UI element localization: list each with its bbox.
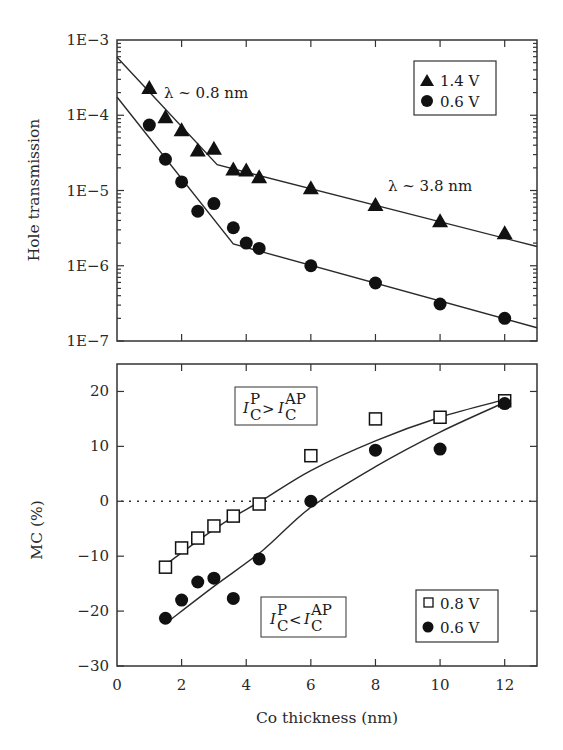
- bottom-ytick-labels: 20100−10−20−30: [77, 382, 109, 675]
- top-y-axis-title: Hole transmission: [25, 119, 43, 262]
- y-tick-label: 1E−5: [66, 182, 109, 200]
- annot-i2: I: [277, 399, 285, 417]
- legend-label-0-8v: 0.8 V: [440, 595, 481, 613]
- legend-circle-marker: [421, 95, 433, 107]
- annotation-p-less-ap: I P C < I AP C: [261, 597, 346, 637]
- annotation-lambda-3-8: λ ~ 3.8 nm: [388, 177, 472, 195]
- y-tick-label: 10: [90, 437, 109, 455]
- data-point-circle: [369, 444, 382, 457]
- chart: 1E−31E−41E−51E−61E−7 Hole transmission λ…: [0, 0, 563, 750]
- fit-curve-06V: [170, 402, 504, 619]
- data-point-circle: [143, 119, 156, 132]
- data-point-triangle: [225, 162, 241, 176]
- annot-i: I: [269, 610, 277, 628]
- legend-label-0-6v-top: 0.6 V: [440, 93, 481, 111]
- annot-i2: I: [303, 610, 311, 628]
- y-tick-label: −30: [77, 657, 109, 675]
- data-point-square: [192, 532, 204, 544]
- data-point-circle: [227, 592, 240, 605]
- x-tick-label: 10: [431, 676, 450, 694]
- top-panel: 1E−31E−41E−51E−61E−7 Hole transmission λ…: [25, 31, 537, 350]
- data-point-circle: [159, 153, 172, 166]
- data-point-square: [434, 411, 446, 423]
- data-point-triangle: [141, 80, 157, 94]
- data-point-square: [253, 498, 265, 510]
- x-tick-label: 2: [177, 676, 187, 694]
- data-point-square: [208, 520, 220, 532]
- y-tick-label: 1E−3: [66, 31, 109, 49]
- annot-sub: C: [277, 617, 288, 635]
- y-tick-label: 1E−7: [66, 332, 109, 350]
- data-point-circle: [191, 575, 204, 588]
- data-point-circle: [434, 298, 447, 311]
- data-point-square: [159, 561, 171, 573]
- annotation-p-greater-ap: I P C > I AP C: [235, 387, 317, 425]
- data-point-triangle: [497, 225, 513, 239]
- data-point-circle: [498, 397, 511, 410]
- bottom-y-axis-title: MC (%): [28, 500, 46, 559]
- x-tick-label: 0: [112, 676, 122, 694]
- bottom-legend: 0.8 V 0.6 V: [416, 590, 498, 642]
- y-tick-label: 20: [90, 382, 109, 400]
- x-axis-title: Co thickness (nm): [256, 709, 398, 727]
- annot-sub2: C: [311, 617, 322, 635]
- legend-label-1-4v: 1.4 V: [440, 72, 481, 90]
- data-point-circle: [498, 312, 511, 325]
- top-ytick-labels: 1E−31E−41E−51E−61E−7: [66, 31, 109, 350]
- annot-i: I: [242, 399, 250, 417]
- data-point-circle: [253, 242, 266, 255]
- data-point-square: [305, 450, 317, 462]
- annot-sub2: C: [285, 406, 296, 424]
- data-point-circle: [253, 552, 266, 565]
- top-legend: 1.4 V 0.6 V: [414, 61, 496, 115]
- annot-sub: C: [250, 406, 261, 424]
- legend-square-marker: [424, 598, 433, 607]
- x-tick-label: 12: [495, 676, 514, 694]
- data-point-circle: [207, 197, 220, 210]
- y-tick-label: −10: [77, 547, 109, 565]
- data-point-circle: [304, 495, 317, 508]
- data-point-square: [176, 542, 188, 554]
- data-point-circle: [175, 594, 188, 607]
- legend-label-0-6v-bottom: 0.6 V: [440, 619, 481, 637]
- y-tick-label: 1E−4: [66, 106, 109, 124]
- annot-op: >: [262, 400, 275, 418]
- data-point-triangle: [206, 141, 222, 155]
- legend-circle-marker: [423, 622, 434, 633]
- bottom-xtick-labels: 024681012: [112, 676, 514, 694]
- data-point-circle: [227, 221, 240, 234]
- x-tick-label: 6: [306, 676, 316, 694]
- data-point-triangle: [174, 122, 190, 136]
- data-point-square: [369, 413, 381, 425]
- data-point-circle: [191, 205, 204, 218]
- data-point-circle: [159, 612, 172, 625]
- bottom-panel: 20100−10−20−30 024681012 MC (%) Co thick…: [28, 364, 537, 727]
- top-data-points: [141, 80, 512, 325]
- fit-curve-08V: [164, 400, 505, 566]
- x-tick-label: 4: [241, 676, 251, 694]
- data-point-triangle: [238, 162, 254, 176]
- annotation-lambda-0-8: λ ~ 0.8 nm: [164, 84, 248, 102]
- bottom-fit-lines: [164, 400, 505, 620]
- data-point-circle: [240, 237, 253, 250]
- y-tick-label: −20: [77, 602, 109, 620]
- annot-op: <: [289, 611, 302, 629]
- data-point-circle: [175, 175, 188, 188]
- data-point-square: [227, 510, 239, 522]
- data-point-circle: [369, 276, 382, 289]
- y-tick-label: 0: [99, 492, 109, 510]
- x-tick-label: 8: [371, 676, 381, 694]
- data-point-circle: [434, 443, 447, 456]
- data-point-circle: [207, 572, 220, 585]
- data-point-circle: [304, 259, 317, 272]
- y-tick-label: 1E−6: [66, 257, 109, 275]
